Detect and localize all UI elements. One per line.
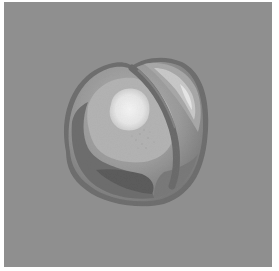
photo-frame bbox=[4, 2, 272, 267]
peach-photo bbox=[4, 2, 272, 267]
peach bbox=[64, 58, 208, 207]
